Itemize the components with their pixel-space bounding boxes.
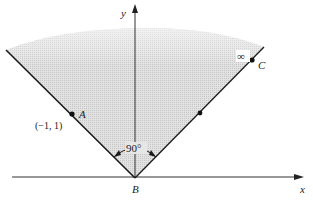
x-axis (12, 174, 304, 180)
point-b-label: B (132, 183, 139, 195)
x-axis-label: x (299, 183, 305, 195)
point-a-coordinates: (−1, 1) (35, 120, 62, 132)
y-axis-arrow-icon (132, 4, 138, 13)
midpoint-dot (198, 111, 203, 116)
point-a-dot (69, 111, 74, 116)
infinity-marker: ∞ (237, 50, 245, 62)
point-c-dot (249, 57, 254, 62)
point-c-label: C (258, 59, 266, 71)
x-axis-arrow-icon (294, 174, 304, 180)
y-axis-label: y (120, 7, 126, 19)
point-a-label: A (78, 108, 86, 120)
wedge-region-diagram: y x A (−1, 1) B C ∞ 90° (0, 0, 313, 204)
angle-label: 90° (126, 142, 141, 154)
